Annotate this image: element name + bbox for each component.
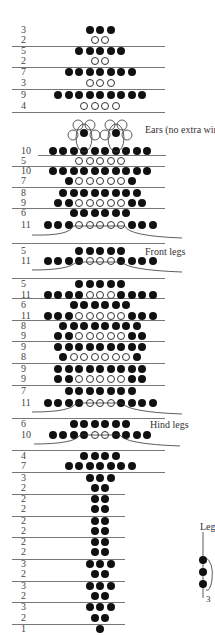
leg-detail-illustration xyxy=(199,532,212,598)
ears-note: Ears (no extra wire) xyxy=(145,124,215,135)
wire-curve-front-legs xyxy=(32,262,182,272)
ears-illustration xyxy=(68,120,132,152)
wire-curves-overlay xyxy=(0,0,215,635)
leg-count-label: 3 xyxy=(206,594,211,604)
wire-curve-row1 xyxy=(32,226,182,238)
front-legs-note: Front legs xyxy=(145,246,185,257)
ear-bead-left xyxy=(80,129,88,137)
wire-curve-hind-legs xyxy=(34,435,180,446)
ear-bead-right xyxy=(112,129,120,137)
wire-curve-back xyxy=(32,403,182,414)
hind-legs-note: Hind legs xyxy=(150,419,189,430)
leg-title: Leg xyxy=(200,521,215,532)
